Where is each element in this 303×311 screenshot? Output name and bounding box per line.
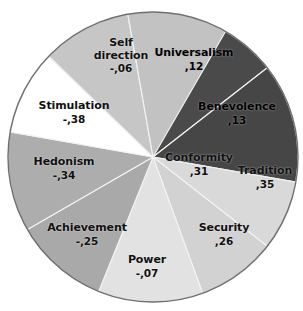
pie-chart: Universalism ,12 Benevolence ,13 Traditi… <box>0 0 303 311</box>
pie-slice-group <box>8 12 298 302</box>
pie-chart-canvas <box>0 0 303 311</box>
